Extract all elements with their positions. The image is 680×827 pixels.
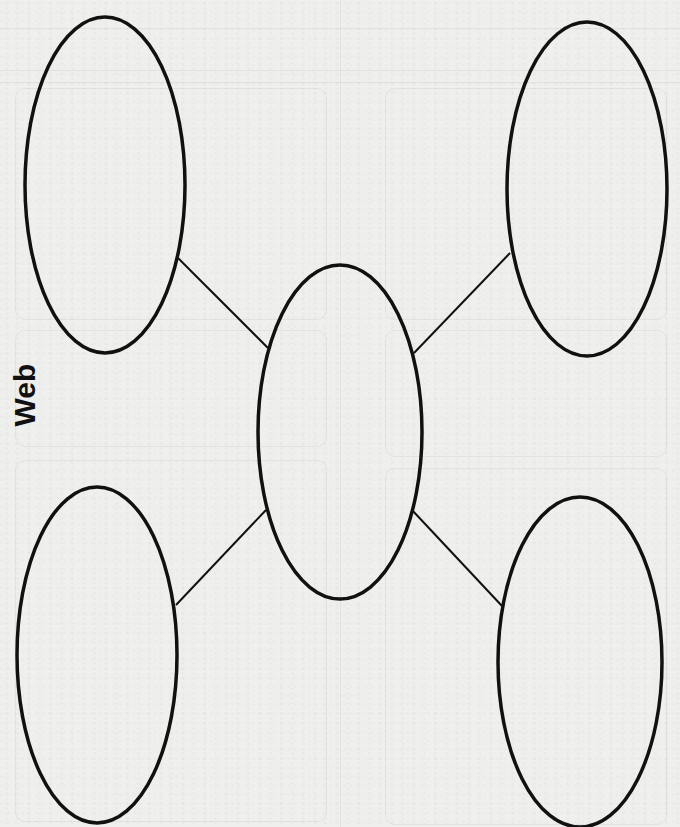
connector-bottom-right [412,510,502,606]
connector-bottom-left [176,510,266,605]
web-diagram [0,0,680,827]
page-title: Web [8,364,42,427]
bubble-bottom-right[interactable] [498,497,662,827]
bubble-center[interactable] [258,265,422,599]
connector-top-right [414,253,510,353]
connector-top-left [178,258,268,348]
bubble-bottom-left[interactable] [17,487,177,823]
bubble-top-left[interactable] [25,17,185,353]
bubble-top-right[interactable] [507,22,667,356]
